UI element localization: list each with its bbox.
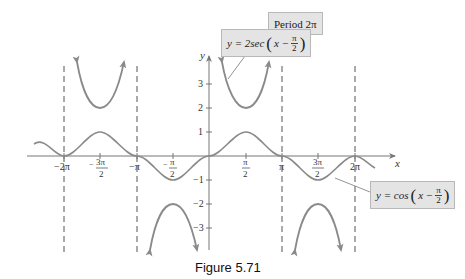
svg-text:3π: 3π: [96, 157, 106, 167]
svg-text:−1: −1: [193, 174, 204, 185]
sec-branch-4: [295, 204, 341, 250]
svg-text:−: −: [163, 160, 168, 169]
sec-branch-3: [222, 62, 269, 108]
svg-text:2: 2: [99, 169, 104, 179]
svg-text:2: 2: [198, 102, 203, 113]
svg-text:−2: −2: [193, 198, 204, 209]
xtick-minus-pi: −π: [129, 161, 140, 172]
svg-text:3π: 3π: [313, 157, 323, 167]
x-axis-label: x: [394, 157, 400, 169]
cos-callout: y = cos ( x − π2 ): [370, 181, 455, 209]
xtick-minus-2pi: −2π: [54, 161, 70, 172]
svg-text:2: 2: [170, 169, 175, 179]
svg-text:−3: −3: [193, 222, 204, 233]
svg-text:π: π: [243, 157, 248, 167]
sec-branch-2: [150, 204, 197, 250]
svg-text:3: 3: [198, 78, 203, 89]
figure-caption: Figure 5.71: [195, 260, 261, 275]
svg-text:2: 2: [315, 169, 320, 179]
svg-text:−: −: [89, 160, 94, 169]
xtick-2pi: 2π: [350, 161, 360, 172]
sec-branch-1: [77, 62, 124, 108]
svg-text:2: 2: [243, 169, 248, 179]
xtick-pi: π: [279, 161, 284, 172]
cos-leader-line: [335, 178, 370, 192]
y-axis-label: y: [199, 49, 205, 61]
sec-callout: y = 2sec ( x − π2 ): [221, 29, 311, 57]
svg-text:π: π: [170, 157, 175, 167]
svg-text:1: 1: [198, 126, 203, 137]
